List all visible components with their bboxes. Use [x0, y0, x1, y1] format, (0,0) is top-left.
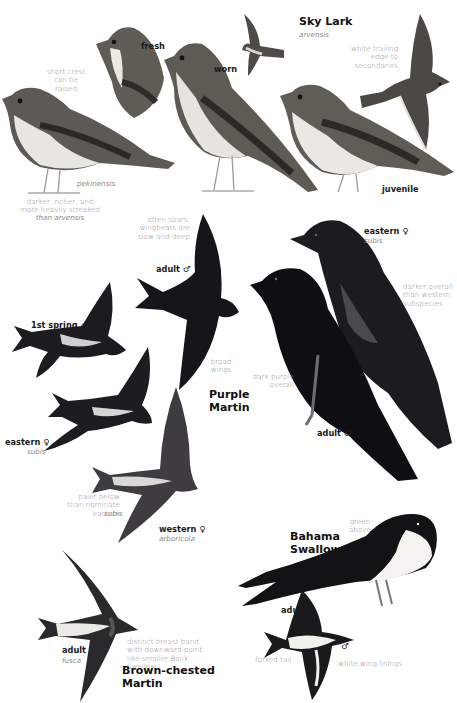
- skylark-flight-small-illustration: [238, 12, 288, 78]
- purple-martin-western-female-illustration: [90, 385, 200, 545]
- dark-purple-note: dark purple overall: [250, 373, 294, 390]
- purple-martin-title-1: Purple: [209, 389, 249, 402]
- first-spring-male-label: 1st spring ♂: [31, 320, 88, 330]
- brown-chested-adult-label: adult: [62, 645, 86, 655]
- adult-male-flight-label: adult ♂: [156, 264, 190, 274]
- forked-tail-note: forked tail: [255, 656, 291, 664]
- brown-chested-title-1: Brown-chested: [122, 665, 215, 678]
- bahama-adults-label: adults: [281, 605, 310, 615]
- western-female-label: western ♀: [159, 524, 205, 534]
- worn-label: worn: [214, 64, 237, 74]
- skylark-title: Sky Lark: [299, 16, 352, 29]
- adult-male-perched-label: adult ♂: [317, 428, 351, 438]
- eastern-female-flight-sub: subis: [27, 447, 46, 456]
- pekinensis-note-3: than arvensis: [15, 214, 105, 222]
- brown-chested-adult-sub: fusca: [62, 656, 81, 665]
- crest-note: short crest can be raised: [44, 68, 88, 93]
- skylark-fresh-illustration: [94, 22, 166, 120]
- purple-martin-title-2: Martin: [209, 402, 250, 415]
- eastern-female-perched-sub: subis: [364, 236, 383, 245]
- eastern-female-perched-label: eastern ♀: [364, 226, 408, 236]
- broad-wings-note: broad wings: [205, 358, 237, 375]
- bahama-flight-male-label: ♂: [341, 641, 348, 651]
- white-wing-linings-note: white wing linings: [338, 660, 402, 668]
- juvenile-label: juvenile: [382, 184, 419, 194]
- western-female-sub: arboricola: [159, 534, 195, 543]
- eastern-female-flight-label: eastern ♀: [5, 437, 49, 447]
- pekinensis-label: pekinensis: [77, 179, 115, 188]
- brown-chested-title-2: Martin: [122, 678, 163, 691]
- skylark-juvenile-illustration: [278, 82, 456, 194]
- skylark-subspecies: arvensis: [299, 30, 329, 39]
- paler-note-sub: subis: [104, 509, 123, 518]
